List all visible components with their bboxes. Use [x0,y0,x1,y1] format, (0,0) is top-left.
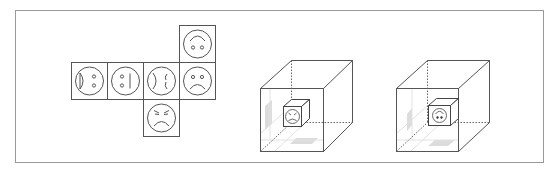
net-square-3 [144,63,180,100]
net-square-top [180,26,216,63]
net-square-4 [180,63,216,100]
net-square-bottom [144,100,180,137]
puzzle-figure [0,0,556,174]
net-square-1 [72,63,108,100]
net-square-2 [108,63,144,100]
